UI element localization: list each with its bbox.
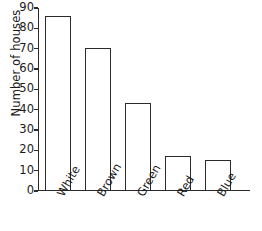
y-axis-tick: [34, 7, 38, 8]
y-axis-tick-label: 0: [12, 185, 34, 197]
y-axis-tick: [34, 89, 38, 90]
y-axis-tick-label: 60: [12, 63, 34, 75]
y-axis-tick: [34, 28, 38, 29]
y-axis-tick: [34, 170, 38, 171]
y-axis-tick: [34, 48, 38, 49]
y-axis-tick: [34, 129, 38, 130]
y-axis-tick-label: 30: [12, 124, 34, 136]
y-axis-tick-label: 10: [12, 165, 34, 177]
y-axis-tick: [34, 68, 38, 69]
x-axis-tick-labels: WhiteBrownGreenRedBlue: [38, 192, 250, 231]
y-axis-tick: [34, 150, 38, 151]
bar-chart: Number of houses 0102030405060708090 Whi…: [0, 0, 262, 231]
y-axis-tick-label: 80: [12, 22, 34, 34]
y-axis-tick-label: 20: [12, 144, 34, 156]
y-axis-tick-label: 40: [12, 104, 34, 116]
y-axis-tick-label: 90: [12, 2, 34, 14]
y-axis-tick-label: 50: [12, 83, 34, 95]
y-axis-tick-label: 70: [12, 43, 34, 55]
y-axis-tick: [34, 109, 38, 110]
bar: [45, 16, 71, 190]
y-axis-tick-labels: 0102030405060708090: [12, 0, 34, 231]
